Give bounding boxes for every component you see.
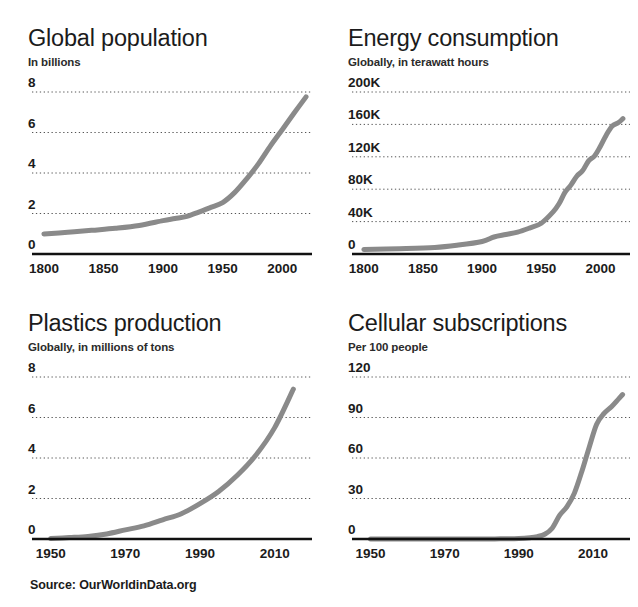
y-axis-tick-label: 6 [28, 116, 36, 131]
plot-svg-cellular-subscriptions: 03060901201950197019902010 [320, 363, 638, 568]
x-axis-tick-label: 1850 [88, 261, 118, 276]
y-axis-tick-label: 60 [348, 441, 363, 456]
y-axis-tick-label: 0 [348, 237, 356, 252]
x-axis-tick-label: 1970 [110, 546, 140, 561]
y-axis-tick-label: 0 [28, 237, 36, 252]
x-axis-tick-label: 2010 [260, 546, 290, 561]
plot-svg-global-population: 0246818001850190019502000 [0, 78, 320, 283]
x-axis-tick-label: 1900 [467, 261, 497, 276]
panel-global-population: Global population In billions 0246818001… [0, 0, 320, 285]
panel-title: Plastics production [28, 311, 312, 336]
x-axis-tick-label: 1950 [356, 546, 386, 561]
panel-subtitle: Per 100 people [348, 341, 630, 353]
y-axis-tick-label: 40K [348, 205, 373, 220]
series-line [364, 119, 623, 250]
y-axis-tick-label: 120K [348, 140, 381, 155]
series-line [51, 389, 294, 538]
panel-subtitle: Globally, in millions of tons [28, 341, 312, 353]
y-axis-tick-label: 6 [28, 401, 36, 416]
y-axis-tick-label: 200K [348, 78, 381, 90]
x-axis-tick-label: 1900 [148, 261, 178, 276]
panel-title: Energy consumption [348, 26, 630, 51]
y-axis-tick-label: 160K [348, 107, 381, 122]
x-axis-tick-label: 2000 [585, 261, 615, 276]
plot-area-cellular-subscriptions: 03060901201950197019902010 [320, 363, 638, 568]
panel-plastics-production: Plastics production Globally, in million… [0, 285, 320, 570]
x-axis-tick-label: 1850 [408, 261, 438, 276]
x-axis-tick-label: 1990 [185, 546, 215, 561]
y-axis-tick-label: 8 [28, 78, 36, 90]
panel-title: Cellular subscriptions [348, 311, 630, 336]
plot-svg-energy-consumption: 040K80K120K160K200K18001850190019502000 [320, 78, 638, 283]
y-axis-tick-label: 0 [28, 522, 36, 537]
y-axis-tick-label: 90 [348, 401, 363, 416]
panel-title: Global population [28, 26, 312, 51]
plot-area-energy-consumption: 040K80K120K160K200K18001850190019502000 [320, 78, 638, 283]
y-axis-tick-label: 8 [28, 363, 36, 375]
x-axis-tick-label: 1950 [208, 261, 238, 276]
panel-subtitle: Globally, in terawatt hours [348, 56, 630, 68]
y-axis-tick-label: 30 [348, 482, 363, 497]
y-axis-tick-label: 120 [348, 363, 371, 375]
source-note: Source: OurWorldinData.org [30, 578, 197, 592]
y-axis-tick-label: 0 [348, 522, 356, 537]
panel-energy-consumption: Energy consumption Globally, in terawatt… [320, 0, 638, 285]
plot-svg-plastics-production: 024681950197019902010 [0, 363, 320, 568]
y-axis-tick-label: 80K [348, 172, 373, 187]
y-axis-tick-label: 4 [28, 441, 36, 456]
y-axis-tick-label: 4 [28, 156, 36, 171]
x-axis-tick-label: 1950 [526, 261, 556, 276]
x-axis-tick-label: 2010 [578, 546, 608, 561]
chart-page: Global population In billions 0246818001… [0, 0, 638, 607]
panel-subtitle: In billions [28, 56, 312, 68]
x-axis-tick-label: 1950 [36, 546, 66, 561]
y-axis-tick-label: 2 [28, 197, 36, 212]
plot-area-plastics-production: 024681950197019902010 [0, 363, 320, 568]
x-axis-tick-label: 1800 [29, 261, 59, 276]
x-axis-tick-label: 1970 [430, 546, 460, 561]
plot-area-global-population: 0246818001850190019502000 [0, 78, 320, 283]
y-axis-tick-label: 2 [28, 482, 36, 497]
x-axis-tick-label: 1990 [504, 546, 534, 561]
chart-grid: Global population In billions 0246818001… [0, 0, 638, 575]
x-axis-tick-label: 2000 [267, 261, 297, 276]
x-axis-tick-label: 1800 [349, 261, 379, 276]
panel-cellular-subscriptions: Cellular subscriptions Per 100 people 03… [320, 285, 638, 570]
series-line [371, 395, 623, 539]
